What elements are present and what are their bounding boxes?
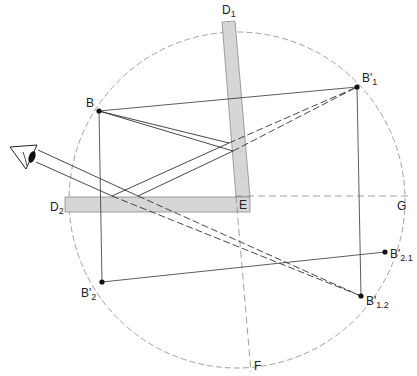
point-b2 <box>99 279 104 284</box>
diagram-svg <box>0 0 417 376</box>
point-b1 <box>354 84 359 89</box>
label-b1: B'1 <box>362 72 377 87</box>
ray-d1-d2-a <box>112 143 229 196</box>
label-d2: D2 <box>50 201 64 216</box>
line-b-b2 <box>99 111 102 282</box>
point-b12 <box>358 293 363 298</box>
line-b1-b12 <box>357 87 361 296</box>
ray-d1-d2-b <box>138 151 233 196</box>
label-d1: D1 <box>222 4 236 19</box>
line-b2-b21 <box>102 252 385 282</box>
label-b12: B'1.2 <box>366 295 389 310</box>
label-g: G <box>397 200 406 212</box>
virtual-ray-d1-b1-a <box>229 87 357 143</box>
label-b: B <box>86 97 94 109</box>
point-b21 <box>382 249 387 254</box>
ray-b-d1-a <box>99 111 229 143</box>
point-b <box>96 108 101 113</box>
ray-b-d1-b <box>99 111 233 151</box>
ray-d2-eye-b <box>38 150 138 196</box>
mirror-d1 <box>222 21 250 197</box>
diagram-canvas: D1 D2 B B'1 B'2 B'2.1 B'1.2 E F G <box>0 0 417 376</box>
eye-icon <box>10 145 37 169</box>
label-b21: B'2.1 <box>390 248 413 263</box>
label-b2: B'2 <box>81 287 96 302</box>
axis-ef <box>236 196 251 372</box>
label-e: E <box>239 199 247 211</box>
label-f: F <box>254 360 261 372</box>
